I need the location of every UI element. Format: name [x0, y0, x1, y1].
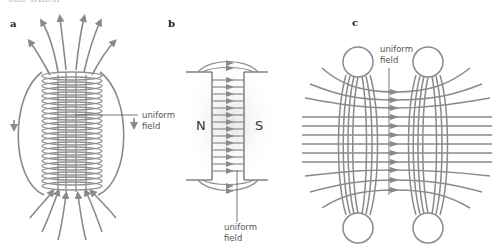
annotation-b-line2: field [224, 233, 257, 244]
annotation-a-line1: uniform [142, 110, 175, 121]
annotation-a: uniform field [142, 110, 175, 132]
south-pole-label: S [255, 118, 263, 133]
solenoid-coil [42, 72, 102, 192]
annotation-c-line2: field [380, 55, 413, 66]
annotation-c: uniform field [380, 44, 413, 66]
solenoid-diagram [0, 0, 501, 250]
north-pole-label: N [196, 118, 206, 133]
annotation-c-line1: uniform [380, 44, 413, 55]
annotation-b-line1: uniform [224, 222, 257, 233]
annotation-a-line2: field [142, 121, 175, 132]
annotation-b: uniform field [224, 222, 257, 244]
